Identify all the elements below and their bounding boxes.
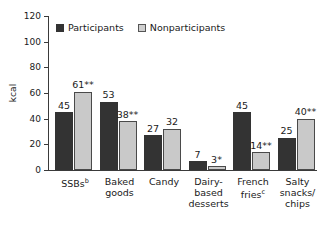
bar-value-label: 40** (286, 107, 326, 117)
y-axis-tick-label: 40 (17, 115, 41, 124)
bar-participants (144, 135, 162, 170)
bar-value-label: 45 (222, 101, 262, 111)
y-axis-tick-label-wrap: 0 (48, 170, 49, 171)
y-axis-tick-label: 60 (17, 89, 41, 98)
y-axis-tick-label: 80 (17, 63, 41, 72)
bar-chart: kcal 020406080100120 4561**5338**273273*… (0, 0, 326, 225)
bar-nonparticipants (74, 92, 92, 170)
plot-area: 020406080100120 4561**5338**273273*4514*… (48, 16, 316, 170)
bar-nonparticipants (297, 119, 315, 170)
light-square-icon (138, 24, 146, 32)
bar-groups: 4561**5338**273273*4514**2540** (48, 16, 316, 170)
bar-group: 2732 (142, 16, 186, 170)
bar-group: 73* (187, 16, 231, 170)
x-axis-category-label: Saltysnacks/chips (271, 176, 325, 209)
dark-square-icon (56, 24, 64, 32)
legend-label-nonparticipants: Nonparticipants (150, 22, 225, 33)
legend-item-nonparticipants: Nonparticipants (138, 22, 225, 33)
y-axis-tick-label: 100 (17, 38, 41, 47)
bar-participants (278, 138, 296, 170)
bar-participants (55, 112, 73, 170)
x-axis-line (48, 170, 317, 171)
bar-group: 2540** (276, 16, 320, 170)
y-axis-tick-label: 0 (17, 166, 41, 175)
y-axis-tick-label: 20 (17, 140, 41, 149)
bar-group: 5338** (98, 16, 142, 170)
bar-value-label: 53 (89, 90, 129, 100)
y-axis-tick-label: 120 (17, 12, 41, 21)
legend-label-participants: Participants (68, 22, 124, 33)
bar-nonparticipants (252, 152, 270, 170)
legend-item-participants: Participants (56, 22, 124, 33)
bar-group: 4514** (231, 16, 275, 170)
bar-nonparticipants (208, 166, 226, 170)
chart-legend: Participants Nonparticipants (56, 22, 225, 33)
